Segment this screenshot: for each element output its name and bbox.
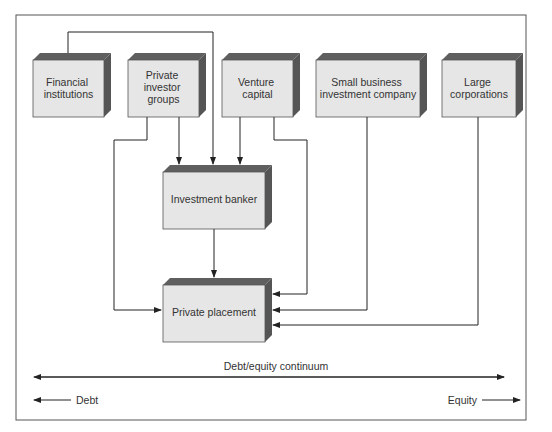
edge-private-investor-to-placement: [114, 117, 161, 310]
node-label: groups: [147, 93, 179, 105]
node-large-corporations: Large corporations: [442, 53, 523, 117]
node-venture-capital: Venture capital: [222, 53, 300, 117]
financing-flow-diagram: Financial institutions Private investor …: [0, 0, 552, 432]
node-label: Private placement: [172, 306, 256, 318]
node-label: capital: [242, 88, 272, 100]
node-investment-banker: Investment banker: [163, 165, 272, 229]
equity-label: Equity: [448, 394, 478, 406]
node-label: Venture: [238, 76, 274, 88]
debt-label: Debt: [76, 394, 98, 406]
node-private-placement: Private placement: [163, 278, 272, 342]
edge-sbic-to-placement: [273, 117, 367, 310]
node-label: Small business: [331, 76, 402, 88]
node-label: Financial: [46, 76, 88, 88]
node-label: investor: [144, 81, 181, 93]
node-label: corporations: [450, 88, 508, 100]
continuum-label: Debt/equity continuum: [224, 360, 329, 372]
svg-text:Private investor g: Private investor groups: [144, 69, 184, 105]
edge-venture-to-placement: [273, 117, 307, 294]
node-label: Private: [146, 69, 179, 81]
node-label: Large: [464, 76, 491, 88]
svg-text:Financial institutions: Financial institutions: [44, 76, 94, 100]
node-small-business-investment-company: Small business investment company: [316, 53, 427, 117]
svg-text:Small business investmen: Small business investment company: [320, 76, 417, 100]
node-label: Investment banker: [171, 193, 258, 205]
node-label: investment company: [320, 88, 417, 100]
svg-text:Venture capital: Venture capital: [238, 76, 277, 100]
node-financial-institutions: Financial institutions: [33, 53, 111, 117]
node-private-investor-groups: Private investor groups: [128, 53, 206, 117]
node-label: institutions: [44, 88, 94, 100]
